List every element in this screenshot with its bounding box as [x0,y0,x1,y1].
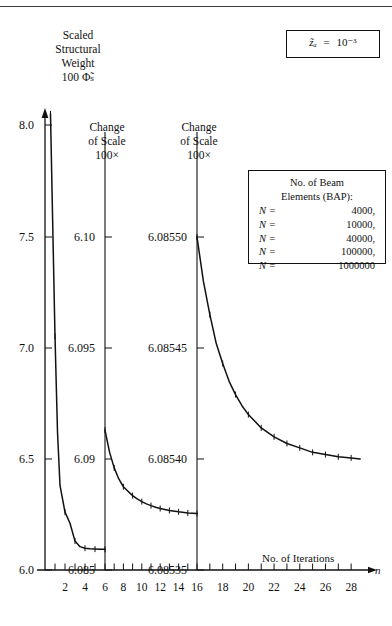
panel-2-curve [105,430,197,513]
x-axis-arrowhead [368,567,377,573]
panel-1-y-tick-label: 7.0 [19,341,34,355]
panel-1-y-tick-label: 8.0 [19,118,34,132]
x-axis-tick-label: 8 [121,581,127,593]
x-axis-tick-label: 6 [102,581,108,593]
x-axis-tick-label: 2 [62,581,68,593]
figure-root: z̃ₐ = 10⁻³ Scaled Structural Weight 100 … [0,0,392,626]
x-axis-tick-label: 14 [173,581,185,593]
panel-2-y-tick-label: 6.09 [74,452,95,466]
x-axis-tick-label: 28 [345,581,357,593]
panel-1-curve [51,114,106,549]
x-axis-tick-label: 12 [154,581,166,593]
panel-3-curve [197,237,360,459]
panel-1-y-tick-label: 7.5 [19,230,34,244]
panel-3-y-tick-label: 6.08550 [148,230,187,244]
x-axis-tick-label: 20 [243,581,255,593]
panel-2-y-tick-label: 6.10 [74,230,95,244]
panel-1-y-tick-label: 6.5 [19,452,34,466]
x-axis-tick-label: 26 [320,581,332,593]
y-axis-arrowhead [42,108,49,118]
panel-2-y-tick-label: 6.085 [68,563,95,577]
panel-3-y-tick-label: 6.08535 [148,563,187,577]
x-axis-tick-label: 18 [217,581,229,593]
panel-3-y-tick-label: 6.08545 [148,341,187,355]
panel-2-y-tick-label: 6.095 [68,341,95,355]
panel-3-y-tick-label: 6.08540 [148,452,187,466]
x-axis-tick-label: 4 [82,581,88,593]
x-axis-tick-label: 24 [294,581,306,593]
plot-canvas: 2468101214161820222426288.07.57.06.56.06… [0,0,392,626]
x-axis-tick-label: 16 [191,581,203,593]
panel-1-y-tick-label: 6.0 [19,563,34,577]
x-axis-tick-label: 10 [136,581,148,593]
x-axis-tick-label: 22 [268,581,280,593]
